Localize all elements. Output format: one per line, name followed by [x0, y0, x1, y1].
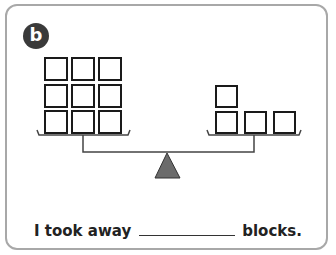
balance-scale — [0, 0, 336, 255]
fulcrum-triangle — [155, 153, 180, 178]
right-pan-blocks — [216, 86, 295, 133]
sentence-suffix: blocks. — [242, 222, 302, 240]
fill-in-sentence: I took away blocks. — [34, 222, 302, 240]
sentence-prefix: I took away — [34, 222, 131, 240]
answer-blank[interactable] — [139, 234, 235, 236]
left-pan-blocks — [45, 58, 121, 133]
